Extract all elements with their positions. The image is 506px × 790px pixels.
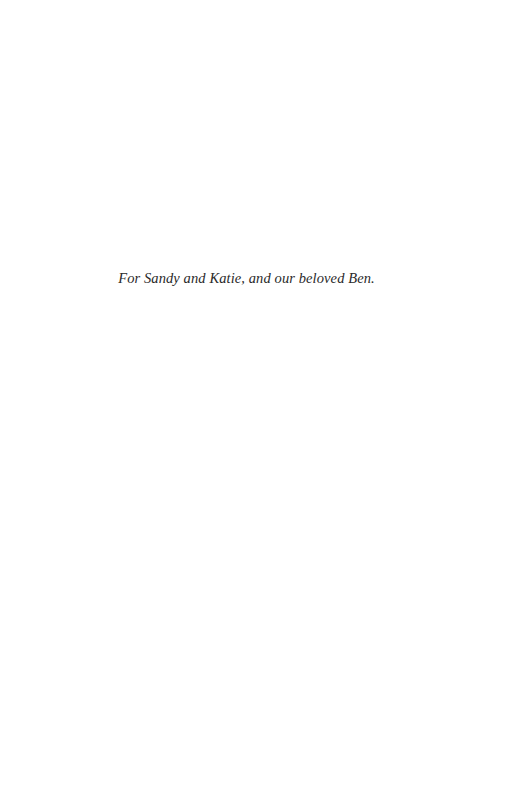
dedication-text: For Sandy and Katie, and our beloved Ben… [0,269,493,287]
book-page: For Sandy and Katie, and our beloved Ben… [0,0,506,790]
